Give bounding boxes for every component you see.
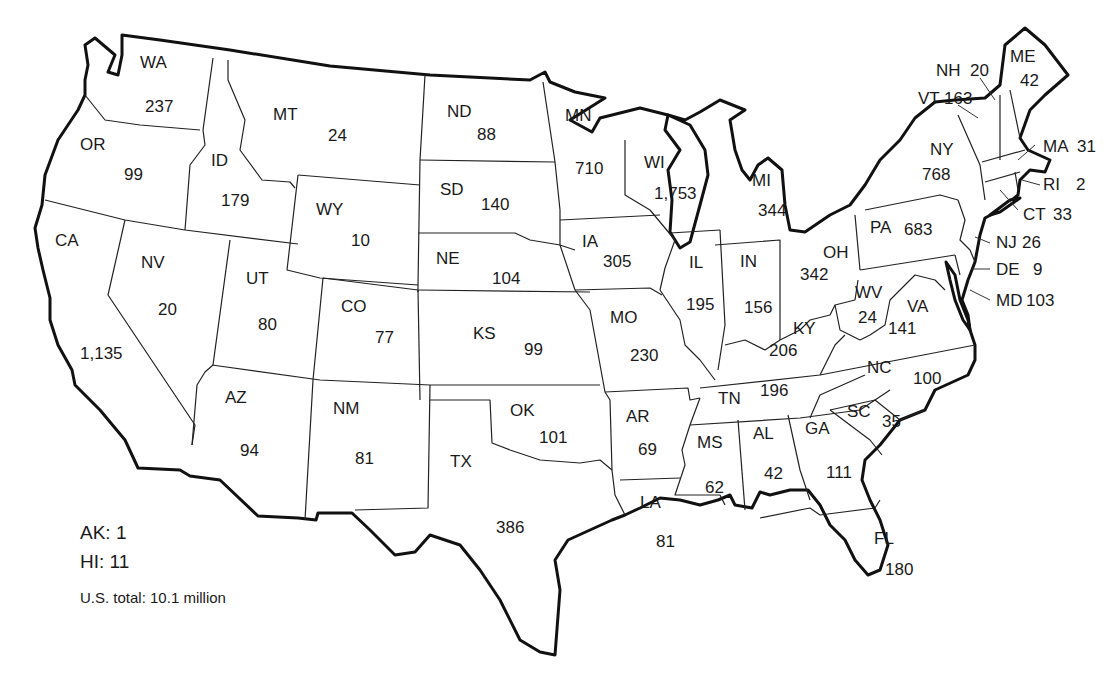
state-abbr-tx: TX: [450, 453, 472, 470]
state-value-ms: 62: [705, 479, 724, 496]
state-value-tx: 386: [496, 519, 524, 536]
state-value-ky: 206: [769, 342, 797, 359]
state-value-wv: 24: [858, 309, 877, 326]
state-abbr-ia: IA: [582, 233, 598, 250]
state-abbr-sc: SC: [847, 403, 871, 420]
state-value-al: 42: [764, 465, 783, 482]
state-value-ma: 31: [1077, 138, 1096, 155]
state-value-tn: 196: [760, 382, 788, 399]
state-abbr-me: ME: [1010, 48, 1036, 65]
state-abbr-nj: NJ: [996, 234, 1017, 251]
state-value-sc: 35: [882, 413, 901, 430]
state-value-wi: 1,753: [654, 185, 697, 202]
state-value-az: 94: [240, 442, 259, 459]
state-abbr-ok: OK: [510, 402, 535, 419]
state-abbr-az: AZ: [225, 389, 247, 406]
state-abbr-vt: VT: [918, 90, 940, 107]
state-value-mt: 24: [328, 127, 347, 144]
state-abbr-ks: KS: [473, 325, 496, 342]
state-value-pa: 683: [904, 221, 932, 238]
state-value-ok: 101: [539, 429, 567, 446]
state-value-ia: 305: [603, 253, 631, 270]
state-abbr-sd: SD: [440, 181, 464, 198]
state-value-ar: 69: [638, 441, 657, 458]
state-value-va: 141: [888, 320, 916, 337]
state-value-de: 9: [1033, 261, 1042, 278]
state-abbr-mo: MO: [610, 309, 637, 326]
state-value-oh: 342: [800, 266, 828, 283]
state-abbr-ca: CA: [55, 232, 79, 249]
legend-us-total: U.S. total: 10.1 million: [80, 590, 226, 605]
state-value-vt: 163: [944, 90, 972, 107]
state-abbr-ne: NE: [436, 250, 460, 267]
state-abbr-ma: MA: [1043, 138, 1069, 155]
state-abbr-al: AL: [753, 425, 774, 442]
state-abbr-ar: AR: [626, 408, 650, 425]
state-abbr-ri: RI: [1043, 176, 1060, 193]
state-value-nm: 81: [355, 450, 374, 467]
state-abbr-de: DE: [996, 261, 1020, 278]
state-value-sd: 140: [481, 196, 509, 213]
state-value-id: 179: [221, 192, 249, 209]
state-abbr-pa: PA: [870, 219, 891, 236]
state-value-md: 103: [1026, 292, 1054, 309]
state-abbr-nv: NV: [141, 254, 165, 271]
state-abbr-ny: NY: [930, 141, 954, 158]
state-abbr-nh: NH: [936, 62, 961, 79]
state-value-nd: 88: [477, 126, 496, 143]
state-abbr-ms: MS: [697, 434, 723, 451]
state-abbr-wa: WA: [140, 54, 167, 71]
state-abbr-or: OR: [80, 136, 106, 153]
state-value-nc: 100: [913, 370, 941, 387]
state-value-mi: 344: [758, 202, 786, 219]
state-value-nj: 26: [1022, 234, 1041, 251]
legend-hawaii: HI: 11: [80, 552, 129, 571]
state-value-la: 81: [656, 533, 675, 550]
state-abbr-in: IN: [740, 253, 757, 270]
state-abbr-oh: OH: [823, 244, 849, 261]
state-abbr-wv: WV: [855, 284, 882, 301]
state-value-nh: 20: [970, 62, 989, 79]
state-value-co: 77: [375, 329, 394, 346]
state-value-nv: 20: [158, 301, 177, 318]
state-value-il: 195: [686, 296, 714, 313]
state-value-ct: 33: [1053, 206, 1072, 223]
state-value-ca: 1,135: [80, 345, 123, 362]
state-abbr-id: ID: [211, 152, 228, 169]
state-value-fl: 180: [885, 561, 913, 578]
state-abbr-md: MD: [996, 292, 1022, 309]
state-abbr-co: CO: [341, 298, 367, 315]
state-value-wy: 10: [351, 232, 370, 249]
state-value-me: 42: [1020, 72, 1039, 89]
state-value-ks: 99: [524, 341, 543, 358]
state-abbr-mt: MT: [273, 106, 298, 123]
state-abbr-ky: KY: [793, 320, 816, 337]
state-abbr-va: VA: [907, 298, 928, 315]
state-abbr-nc: NC: [867, 359, 892, 376]
state-abbr-fl: FL: [874, 530, 894, 547]
state-value-ri: 2: [1076, 176, 1085, 193]
state-value-wa: 237: [145, 98, 173, 115]
state-abbr-la: LA: [640, 494, 661, 511]
state-abbr-nd: ND: [447, 103, 472, 120]
state-value-in: 156: [744, 299, 772, 316]
state-value-mo: 230: [630, 347, 658, 364]
state-abbr-nm: NM: [333, 400, 359, 417]
state-value-ga: 111: [826, 464, 852, 481]
state-abbr-ga: GA: [805, 420, 830, 437]
state-abbr-tn: TN: [718, 390, 741, 407]
state-value-mn: 710: [575, 160, 603, 177]
state-abbr-ct: CT: [1023, 206, 1046, 223]
state-abbr-ut: UT: [246, 270, 269, 287]
state-abbr-mn: MN: [565, 107, 591, 124]
state-abbr-mi: MI: [752, 172, 771, 189]
state-abbr-il: IL: [689, 254, 703, 271]
state-value-ut: 80: [258, 316, 277, 333]
state-value-ny: 768: [922, 166, 950, 183]
state-value-or: 99: [124, 166, 143, 183]
legend-alaska: AK: 1: [80, 523, 126, 542]
state-abbr-wi: WI: [644, 154, 665, 171]
state-abbr-wy: WY: [316, 201, 343, 218]
state-value-ne: 104: [492, 270, 520, 287]
